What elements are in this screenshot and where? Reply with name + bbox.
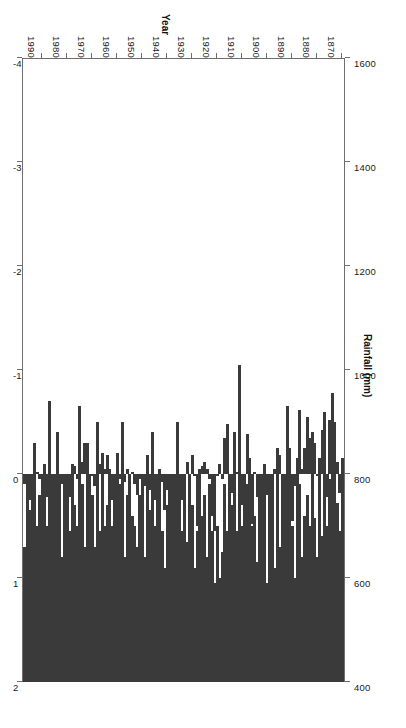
temperature-tick-label: -1 — [13, 370, 22, 381]
temperature-bar — [81, 462, 84, 474]
rainfall-tick — [345, 681, 350, 682]
temperature-bar — [193, 474, 196, 476]
temperature-tick-label: 0 — [13, 474, 18, 485]
temperature-bar — [38, 474, 41, 479]
year-tick-label: 1920 — [201, 36, 212, 58]
rainfall-axis-title: Rainfall (mm) — [362, 334, 373, 397]
year-tick-label: 1880 — [301, 36, 312, 58]
temperature-bar — [248, 474, 251, 597]
temperature-bar — [211, 474, 214, 516]
temperature-bar — [291, 474, 294, 521]
year-tick — [41, 53, 42, 58]
year-tick — [291, 53, 292, 58]
year-tick — [91, 53, 92, 58]
temperature-bar — [296, 466, 299, 474]
temperature-bar — [98, 464, 101, 474]
temperature-bar — [86, 474, 89, 507]
temperature-tick-label: 1 — [13, 578, 18, 589]
year-tick-label: 1910 — [226, 36, 237, 58]
temperature-bar — [316, 474, 319, 476]
year-tick — [216, 53, 217, 58]
temperature-bar — [186, 462, 189, 474]
year-tick — [342, 53, 343, 58]
rainfall-tick — [345, 369, 350, 370]
temperature-bar — [241, 474, 244, 505]
rainfall-tick-label: 600 — [354, 578, 370, 589]
temperature-bar — [341, 458, 344, 474]
temperature-bar — [128, 474, 131, 545]
temperature-bar — [281, 474, 284, 531]
year-tick-label: 1950 — [126, 36, 137, 58]
temperature-bar — [161, 474, 164, 482]
temperature-bar — [133, 474, 136, 484]
rainfall-tick — [345, 473, 350, 474]
temperature-bar — [23, 474, 26, 484]
temperature-bar — [108, 474, 111, 476]
temperature-tick-label: 2 — [13, 682, 18, 693]
chart-upright-wrapper: 4006008001000120014001600Rainfall (mm)21… — [0, 0, 406, 728]
rainfall-tick — [345, 265, 350, 266]
rainfall-bar — [23, 547, 26, 682]
temperature-bar — [188, 474, 191, 545]
year-tick-label: 1940 — [151, 36, 162, 58]
year-tick — [316, 53, 317, 58]
temperature-bar — [208, 474, 211, 479]
year-tick-label: 1890 — [276, 36, 287, 58]
temperature-bar — [191, 455, 194, 474]
temperature-bar — [298, 410, 301, 474]
temperature-bar — [78, 474, 81, 536]
year-tick-label: 1870 — [326, 36, 337, 58]
rainfall-tick — [345, 577, 350, 578]
temperature-bar — [266, 474, 269, 495]
temperature-bar — [73, 466, 76, 474]
rainfall-tick-label: 800 — [354, 474, 370, 485]
temperature-tick-label: -4 — [13, 58, 22, 69]
rainfall-tick-label: 400 — [354, 682, 370, 693]
year-tick-label: 1980 — [51, 36, 62, 58]
year-tick-label: 1900 — [251, 36, 262, 58]
temperature-bar — [146, 455, 149, 474]
temperature-bar — [339, 474, 342, 493]
year-tick — [191, 53, 192, 58]
temperature-tick-label: -2 — [13, 266, 22, 277]
temperature-bar — [311, 474, 314, 495]
year-tick — [166, 53, 167, 58]
temperature-bar — [326, 474, 329, 497]
temperature-bar — [258, 474, 261, 651]
temperature-bar — [141, 474, 144, 557]
temperature-bar — [148, 474, 151, 490]
rainfall-tick-label: 1400 — [354, 162, 376, 173]
year-tick — [266, 53, 267, 58]
temperature-bar — [223, 438, 226, 474]
temperature-bar — [318, 464, 321, 474]
chart-stage: 4006008001000120014001600Rainfall (mm)21… — [0, 0, 406, 728]
temperature-bar — [76, 474, 79, 479]
year-tick-label: 1960 — [101, 36, 112, 58]
temperature-bar — [313, 443, 316, 474]
temperature-bar — [196, 474, 199, 526]
temperature-bar — [51, 474, 54, 493]
temperature-bar — [246, 434, 249, 474]
year-tick — [116, 53, 117, 58]
temperature-bar — [168, 474, 171, 586]
rainfall-tick-label: 1200 — [354, 266, 376, 277]
year-tick-label: 1970 — [76, 36, 87, 58]
rainfall-tick — [345, 161, 350, 162]
temperature-bar — [111, 474, 114, 500]
year-tick-label: 1930 — [176, 36, 187, 58]
temperature-bar — [221, 474, 224, 479]
year-tick-label: 1990 — [26, 36, 37, 58]
temperature-tick-label: -3 — [13, 162, 22, 173]
rainfall-tick-label: 1600 — [354, 58, 376, 69]
temperature-bar — [121, 462, 124, 474]
temperature-bar — [101, 474, 104, 497]
rainfall-tick — [345, 57, 350, 58]
temperature-bar — [41, 474, 44, 590]
temperature-bar — [256, 474, 259, 497]
temperature-bar — [123, 474, 126, 482]
year-tick — [141, 53, 142, 58]
year-axis-title: Year — [160, 14, 171, 35]
year-tick — [66, 53, 67, 58]
temperature-bar — [288, 474, 291, 476]
year-tick — [241, 53, 242, 58]
